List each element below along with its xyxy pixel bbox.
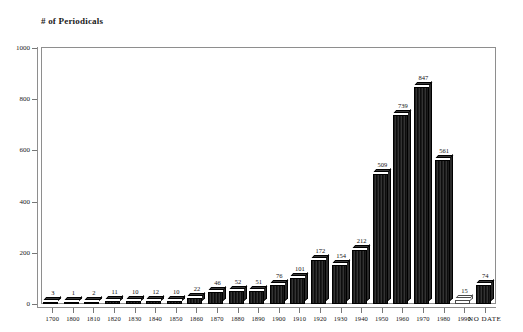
- x-tick-label: 1970: [416, 315, 429, 322]
- bar-front-face: [352, 250, 367, 304]
- bar-top-face: [209, 287, 227, 290]
- x-tick-mark: [155, 308, 156, 313]
- x-tick-mark: [93, 308, 94, 313]
- y-tick-label: 200: [20, 249, 31, 257]
- x-tick-label: 1820: [107, 315, 120, 322]
- bar[interactable]: 10: [126, 297, 145, 304]
- bar-side-face: [450, 155, 453, 301]
- bar-side-face: [429, 81, 432, 301]
- x-tick-mark: [114, 308, 115, 313]
- x-tick-mark: [238, 308, 239, 313]
- bar-value-label: 154: [328, 252, 355, 259]
- y-tick-mark: [32, 202, 37, 203]
- bar-top-face: [456, 295, 474, 298]
- x-tick-mark: [361, 308, 362, 313]
- bar[interactable]: 101: [290, 274, 309, 304]
- y-tick-mark: [32, 253, 37, 254]
- bar-front-face: [167, 301, 182, 304]
- bar-top-face: [373, 169, 391, 172]
- bar[interactable]: 212: [352, 246, 371, 304]
- x-tick-mark: [402, 308, 403, 313]
- bar-top-face: [229, 286, 247, 289]
- bar[interactable]: 847: [414, 83, 433, 304]
- x-tick-label: 1920: [313, 315, 326, 322]
- bar-front-face: [43, 302, 58, 304]
- bar-front-face: [249, 291, 264, 304]
- x-tick-mark: [341, 308, 342, 313]
- bar[interactable]: 10: [167, 297, 186, 304]
- bar[interactable]: 2: [84, 298, 103, 304]
- bar-top-face: [65, 297, 83, 300]
- bar-top-face: [435, 155, 453, 158]
- bar-front-face: [84, 302, 99, 304]
- bar[interactable]: 74: [476, 281, 495, 304]
- bar-front-face: [373, 174, 388, 304]
- y-axis-outer-line: [37, 47, 38, 308]
- bar[interactable]: 509: [373, 170, 392, 304]
- x-tick-mark: [135, 308, 136, 313]
- x-tick-label: 1800: [66, 315, 79, 322]
- x-tick-label: 1980: [437, 315, 450, 322]
- x-tick-mark: [279, 308, 280, 313]
- x-tick-mark: [299, 308, 300, 313]
- bar-front-face: [393, 115, 408, 304]
- x-tick-mark: [52, 308, 53, 313]
- x-tick-label: 1850: [169, 315, 182, 322]
- bar-side-face: [408, 109, 411, 301]
- bar-front-face: [332, 265, 347, 304]
- x-tick-label: 1870: [210, 315, 223, 322]
- x-tick-mark: [196, 308, 197, 313]
- x-tick-label: 1830: [128, 315, 141, 322]
- bar-side-face: [305, 272, 308, 301]
- x-tick-mark: [217, 308, 218, 313]
- bar[interactable]: 15: [455, 296, 474, 304]
- bar-top-face: [332, 260, 350, 263]
- x-tick-label: 1940: [354, 315, 367, 322]
- bar[interactable]: 12: [146, 297, 165, 304]
- bar-front-face: [64, 302, 79, 304]
- bar-front-face: [229, 291, 244, 304]
- bar-front-face: [126, 301, 141, 304]
- bar-front-face: [290, 278, 305, 304]
- bar[interactable]: 51: [249, 287, 268, 304]
- bar[interactable]: 739: [393, 111, 412, 304]
- y-tick-mark: [32, 99, 37, 100]
- y-tick-label: 400: [20, 198, 31, 206]
- x-tick-mark: [73, 308, 74, 313]
- x-tick-label: 1960: [396, 315, 409, 322]
- bar-top-face: [270, 280, 288, 283]
- x-tick-mark: [258, 308, 259, 313]
- bar-front-face: [476, 285, 491, 304]
- x-tick-label: 1950: [375, 315, 388, 322]
- y-tick-label: 0: [27, 300, 31, 308]
- bar[interactable]: 52: [229, 287, 248, 304]
- bar-side-face: [367, 244, 370, 301]
- bar[interactable]: 3: [43, 298, 62, 304]
- bar[interactable]: 1: [64, 298, 83, 304]
- x-axis: 1700180018101820183018401850186018701880…: [42, 315, 495, 329]
- bar[interactable]: 561: [435, 156, 454, 304]
- x-tick-label: 1910: [293, 315, 306, 322]
- y-tick-mark: [32, 304, 37, 305]
- bar-value-label: 509: [369, 161, 396, 168]
- bar-value-label: 15: [451, 287, 478, 294]
- bar-front-face: [455, 300, 470, 304]
- bar[interactable]: 76: [270, 281, 289, 304]
- x-tick-mark: [320, 308, 321, 313]
- x-tick-mark: [464, 308, 465, 313]
- bar-value-label: 101: [286, 265, 313, 272]
- bar[interactable]: 46: [208, 288, 227, 304]
- bar[interactable]: 11: [105, 297, 124, 304]
- bar-value-label: 739: [389, 102, 416, 109]
- bar[interactable]: 172: [311, 256, 330, 304]
- bar-front-face: [414, 87, 429, 304]
- bar[interactable]: 154: [332, 261, 351, 304]
- bar-top-face: [476, 280, 494, 283]
- bar-front-face: [311, 260, 326, 304]
- plot-area: 3121110121022465251761011721542125097398…: [42, 48, 495, 304]
- bar[interactable]: 22: [187, 294, 206, 304]
- bar-top-face: [106, 296, 124, 299]
- x-tick-label: NO DATE: [468, 315, 501, 323]
- x-tick-label: 1930: [334, 315, 347, 322]
- bar-value-label: 212: [348, 237, 375, 244]
